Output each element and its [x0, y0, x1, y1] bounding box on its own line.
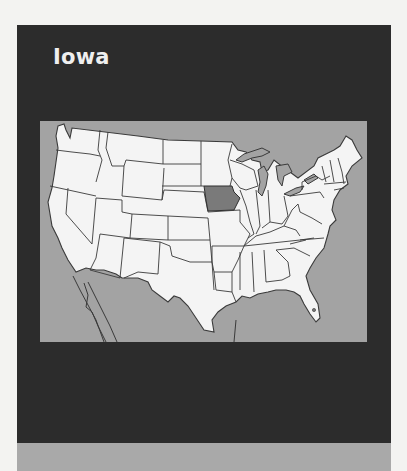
us-map-svg [40, 121, 367, 342]
us-map [40, 121, 367, 342]
florida-dot [312, 308, 315, 311]
card-title: Iowa [53, 45, 110, 69]
card-footer-band [17, 443, 391, 471]
flashcard: Iowa [17, 25, 391, 471]
